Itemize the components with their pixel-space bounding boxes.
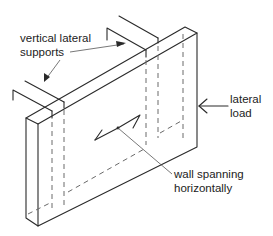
span-leader: [118, 128, 172, 174]
supports-label-line1: vertical lateral: [20, 32, 91, 44]
wall-lateral-support-diagram: vertical lateral supports lateral load w…: [0, 0, 273, 236]
load-label-line1: lateral: [230, 93, 261, 105]
bending-symbol: [95, 115, 140, 140]
supports-label-line2: supports: [20, 46, 64, 58]
span-label-line1: wall spanning: [173, 168, 244, 180]
span-label-line2: horizontally: [174, 182, 232, 194]
lateral-load-arrow: [199, 99, 228, 113]
load-label-line2: load: [230, 107, 252, 119]
